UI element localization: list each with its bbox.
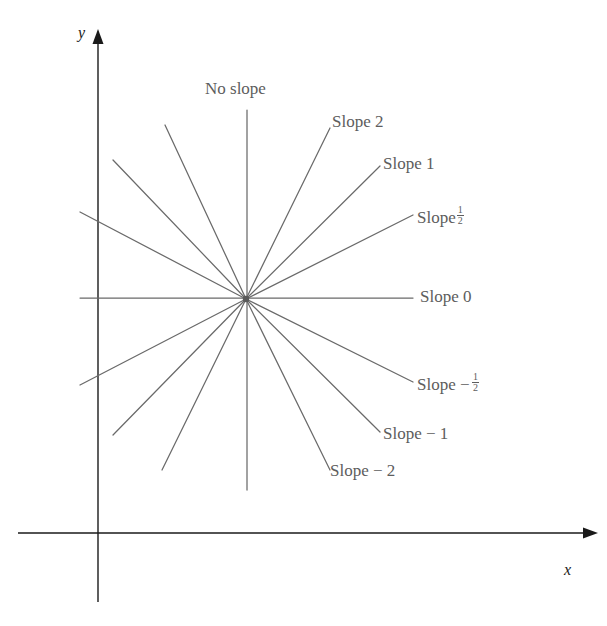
- label-no-slope: No slope: [205, 80, 266, 97]
- fraction-numerator: 1: [472, 372, 479, 382]
- label-slope-1: Slope 1: [383, 155, 434, 172]
- axes-group: [18, 29, 598, 602]
- y-axis-arrowhead: [93, 29, 104, 44]
- fraction-one-half: 12: [457, 205, 464, 226]
- label-slope-one-half-text: Slope: [417, 208, 456, 227]
- fraction-denominator: 2: [457, 215, 464, 226]
- ray-slope-2: [246, 128, 330, 299]
- label-slope-one-half: Slope12: [417, 205, 464, 226]
- ray-slope-neg-one-half: [246, 299, 413, 382]
- label-slope-2: Slope 2: [332, 113, 383, 130]
- diagram-canvas: [0, 0, 607, 626]
- ray-slope-neg-one-half-mirror: [80, 212, 246, 299]
- ray-slope-1: [246, 166, 380, 299]
- x-axis-arrowhead: [583, 528, 598, 539]
- ray-slope-one-half-mirror: [80, 299, 246, 385]
- fraction-numerator: 1: [457, 205, 464, 215]
- x-axis-label: x: [564, 562, 571, 578]
- ray-slope-neg-1-mirror: [113, 160, 246, 299]
- fraction-denominator: 2: [472, 382, 479, 393]
- label-slope-0: Slope 0: [420, 288, 471, 305]
- ray-slope-one-half: [246, 215, 413, 299]
- label-slope-neg-one-half-text: Slope: [417, 375, 456, 394]
- ray-slope-neg-1: [246, 299, 380, 432]
- ray-slope-neg-2-mirror: [165, 125, 246, 299]
- label-slope-neg-one-half: Slope −12: [417, 372, 479, 393]
- common-point-marker: [243, 296, 249, 302]
- ray-slope-1-mirror: [113, 299, 246, 435]
- ray-slope-2-mirror: [162, 299, 246, 470]
- fraction-neg-one-half: 12: [472, 372, 479, 393]
- y-axis-label: y: [78, 25, 85, 41]
- label-slope-neg-2: Slope − 2: [330, 462, 395, 479]
- ray-slope-neg-2: [246, 299, 330, 470]
- minus-sign: −: [460, 375, 471, 394]
- label-slope-neg-1: Slope − 1: [383, 425, 448, 442]
- slope-diagram-figure: No slope Slope 2 Slope 1 Slope12 Slope 0…: [0, 0, 607, 626]
